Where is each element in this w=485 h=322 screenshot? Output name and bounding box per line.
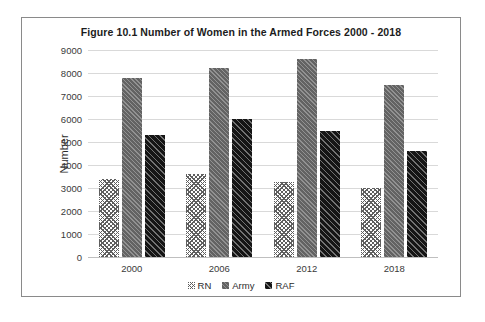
bar-rn-2000 — [99, 179, 119, 257]
y-axis-tick-label: 9000 — [61, 45, 82, 56]
y-axis-tick-label: 0 — [77, 252, 82, 263]
bar-rn-2018 — [361, 188, 381, 257]
plot-area: 0100020003000400050006000700080009000 — [88, 50, 438, 257]
bar-rn-2012 — [274, 182, 294, 257]
bar-group — [176, 50, 264, 257]
y-axis-tick-label: 4000 — [61, 160, 82, 171]
bar-army-2018 — [384, 85, 404, 258]
y-axis-tick-label: 3000 — [61, 183, 82, 194]
gridline — [88, 257, 438, 258]
x-axis-tick-label: 2018 — [384, 263, 405, 274]
x-axis-tick-label: 2006 — [209, 263, 230, 274]
bar-raf-2000 — [145, 135, 165, 257]
bar-rn-2006 — [186, 174, 206, 257]
chart-frame: Figure 10.1 Number of Women in the Armed… — [21, 17, 461, 297]
legend-label: RN — [198, 280, 212, 291]
y-axis-tick-label: 1000 — [61, 229, 82, 240]
bar-group — [263, 50, 351, 257]
bar-group — [88, 50, 176, 257]
y-axis-title: Number — [44, 50, 83, 257]
legend-item-army[interactable]: Army — [222, 280, 254, 291]
x-axis-tick-label: 2000 — [121, 263, 142, 274]
y-axis-tick-label: 2000 — [61, 206, 82, 217]
bar-army-2006 — [209, 68, 229, 257]
y-axis-tick-label: 7000 — [61, 91, 82, 102]
bar-group — [351, 50, 439, 257]
legend-label: Army — [232, 280, 254, 291]
chart-legend: RNArmyRAF — [22, 280, 460, 291]
bar-raf-2006 — [232, 119, 252, 257]
x-axis-tick-label: 2012 — [296, 263, 317, 274]
legend-swatch-icon — [188, 282, 195, 289]
chart-title: Figure 10.1 Number of Women in the Armed… — [22, 26, 460, 38]
legend-item-raf[interactable]: RAF — [265, 280, 294, 291]
legend-swatch-icon — [222, 282, 229, 289]
bar-army-2012 — [297, 59, 317, 257]
legend-item-rn[interactable]: RN — [188, 280, 212, 291]
y-axis-tick-label: 5000 — [61, 137, 82, 148]
y-axis-tick-label: 6000 — [61, 114, 82, 125]
y-axis-tick-label: 8000 — [61, 68, 82, 79]
bar-army-2000 — [122, 78, 142, 257]
legend-swatch-icon — [265, 282, 272, 289]
legend-label: RAF — [275, 280, 294, 291]
bar-raf-2018 — [407, 151, 427, 257]
bar-raf-2012 — [320, 131, 340, 258]
